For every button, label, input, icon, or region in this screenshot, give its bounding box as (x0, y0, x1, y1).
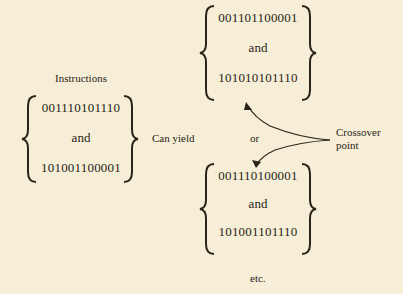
parent-1: 001110101110 (38, 100, 124, 116)
arrowhead-up-icon (244, 102, 252, 110)
right-brace (124, 96, 138, 182)
offspring-b-and: and (214, 196, 302, 212)
crossover-point-label: Crossover point (336, 126, 381, 152)
offspring-b-1: 001110100001 (214, 168, 302, 184)
point-text: point (336, 139, 381, 152)
offspring-a-1: 001101100001 (214, 10, 302, 26)
parent-2: 101001100001 (38, 160, 124, 176)
left-brace (22, 96, 36, 182)
etc-label: etc. (250, 272, 266, 284)
instructions-label: Instructions (55, 72, 107, 84)
offspring-a-and: and (214, 40, 302, 56)
can-yield-label: Can yield (152, 132, 194, 144)
offspring-a-2: 101010101110 (214, 70, 302, 86)
offspring-b-2: 101001101110 (214, 224, 302, 240)
parents-group: 001110101110 and 101001100001 (38, 100, 124, 176)
crossover-text: Crossover (336, 126, 381, 139)
parents-and: and (38, 130, 124, 146)
arrow-down-curve (257, 140, 330, 164)
offspring-b-group: 001110100001 and 101001101110 (214, 168, 302, 240)
or-label: or (250, 132, 259, 144)
offspring-a-group: 001101100001 and 101010101110 (214, 10, 302, 86)
arrow-up-curve (248, 106, 330, 140)
